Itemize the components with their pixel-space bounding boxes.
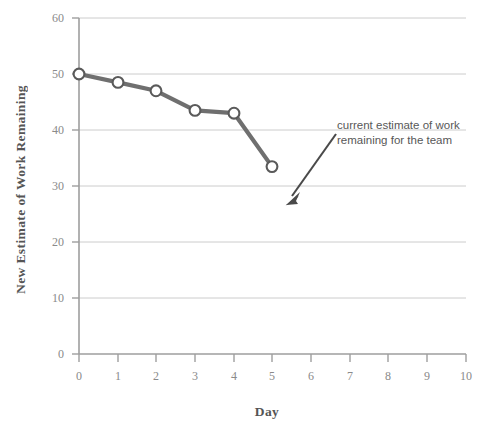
x-tick-label: 2 [143,369,169,384]
data-point [151,85,162,96]
y-tick-label: 10 [38,291,64,306]
x-tick-label: 0 [66,369,92,384]
x-tick-label: 7 [337,369,363,384]
x-tick-label: 10 [453,369,479,384]
y-tick-label: 50 [38,67,64,82]
data-point [113,77,124,88]
y-tick-label: 40 [38,123,64,138]
annotation-line-2: remaining for the team [337,133,497,148]
data-point [190,105,201,116]
x-tick-label: 3 [182,369,208,384]
chart-annotation: current estimate of work remaining for t… [337,118,497,148]
y-tick-label: 30 [38,179,64,194]
data-series-line [79,74,272,167]
data-point [267,161,278,172]
annotation-line-1: current estimate of work [337,118,497,133]
x-tick-label: 4 [221,369,247,384]
y-tick-label: 0 [38,347,64,362]
x-tick-label: 9 [414,369,440,384]
data-point [229,108,240,119]
y-tick-label: 60 [38,11,64,26]
gridlines [79,18,466,298]
x-tick-label: 8 [375,369,401,384]
data-point [74,69,85,80]
data-point-markers [74,69,278,172]
x-axis-title: Day [217,404,317,420]
y-axis-title: New Estimate of Work Remaining [12,60,30,320]
y-tick-label: 20 [38,235,64,250]
x-axis [79,354,466,362]
burndown-chart: New Estimate of Work Remaining Day 60 50… [0,0,503,437]
x-tick-label: 6 [298,369,324,384]
x-tick-label: 5 [259,369,285,384]
annotation-arrow-icon [286,134,337,206]
x-tick-label: 1 [105,369,131,384]
